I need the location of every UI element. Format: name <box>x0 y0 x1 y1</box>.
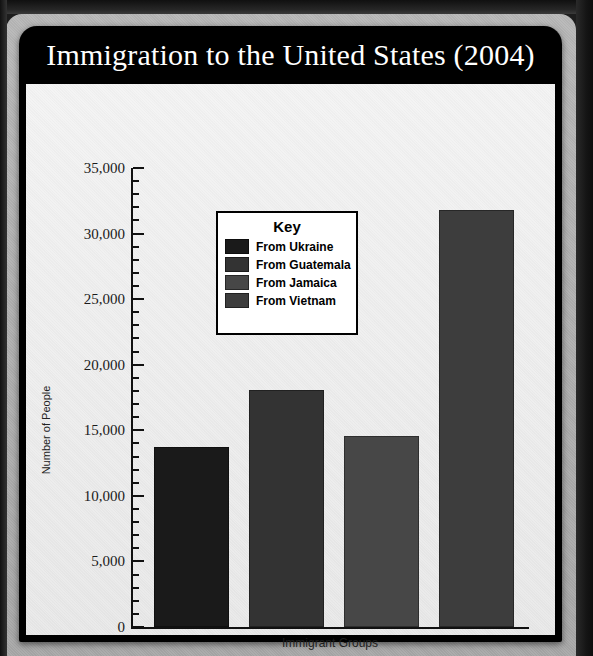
legend-item-label: From Vietnam <box>256 294 336 308</box>
chart-card-frame: Immigration to the United States (2004) … <box>19 26 562 642</box>
legend-title: Key <box>218 218 356 235</box>
bar-from-guatemala[interactable] <box>249 390 324 627</box>
y-axis-minor-tick <box>133 416 139 418</box>
screenshot-root: Immigration to the United States (2004) … <box>0 0 593 656</box>
legend-item[interactable]: From Vietnam <box>225 293 356 308</box>
y-axis-label: Number of People <box>40 350 52 510</box>
y-axis-minor-tick <box>133 600 139 602</box>
legend-item-label: From Ukraine <box>256 240 333 254</box>
y-axis-minor-tick <box>133 324 139 326</box>
y-axis-minor-tick <box>133 285 139 287</box>
legend-swatch-icon <box>225 293 249 308</box>
y-axis-minor-tick <box>133 587 139 589</box>
y-axis-minor-tick <box>133 337 139 339</box>
y-axis-major-tick <box>133 167 144 169</box>
y-axis-major-tick <box>133 298 144 300</box>
legend-swatch-icon <box>225 257 249 272</box>
legend-key-box: Key From UkraineFrom GuatemalaFrom Jamai… <box>216 211 358 335</box>
y-axis-major-tick <box>133 233 144 235</box>
y-axis-minor-tick <box>133 482 139 484</box>
y-axis-minor-tick <box>133 180 139 182</box>
plot-area: 35,00030,00025,00020,00015,00010,0005,00… <box>26 84 555 635</box>
y-axis-tick-label: 25,000 <box>33 291 125 308</box>
legend-swatch-icon <box>225 275 249 290</box>
y-axis-minor-tick <box>133 521 139 523</box>
y-axis-minor-tick <box>133 547 139 549</box>
y-axis-line <box>131 168 133 628</box>
chart-title: Immigration to the United States (2004) <box>19 26 562 84</box>
bar-from-jamaica[interactable] <box>344 436 419 627</box>
legend-item[interactable]: From Ukraine <box>225 239 356 254</box>
y-axis-tick-label: 30,000 <box>33 225 125 242</box>
y-axis-minor-tick <box>133 193 139 195</box>
page-edge-right <box>576 0 593 656</box>
y-axis-minor-tick <box>133 377 139 379</box>
legend-swatch-icon <box>225 239 249 254</box>
y-axis-major-tick <box>133 626 144 628</box>
page-edge-left <box>0 0 7 656</box>
y-axis-minor-tick <box>133 508 139 510</box>
bar-from-vietnam[interactable] <box>439 210 514 627</box>
y-axis-minor-tick <box>133 351 139 353</box>
y-axis-minor-tick <box>133 390 139 392</box>
y-axis-tick-label: 0 <box>33 619 125 636</box>
y-axis-minor-tick <box>133 219 139 221</box>
y-axis-tick-label: 35,000 <box>33 160 125 177</box>
legend-item-label: From Guatemala <box>256 258 351 272</box>
y-axis-minor-tick <box>133 613 139 615</box>
y-axis-minor-tick <box>133 442 139 444</box>
x-axis-line <box>131 627 529 629</box>
legend-rows: From UkraineFrom GuatemalaFrom JamaicaFr… <box>218 239 356 308</box>
x-axis-label: Immigrant Groups <box>131 636 529 650</box>
y-axis-major-tick <box>133 560 144 562</box>
y-axis-minor-tick <box>133 206 139 208</box>
y-axis-minor-tick <box>133 456 139 458</box>
y-axis-minor-tick <box>133 574 139 576</box>
y-axis-major-tick <box>133 429 144 431</box>
legend-item[interactable]: From Guatemala <box>225 257 356 272</box>
y-axis-minor-tick <box>133 403 139 405</box>
bar-from-ukraine[interactable] <box>154 447 229 627</box>
y-axis-tick-label: 5,000 <box>33 553 125 570</box>
chart-canvas: 35,00030,00025,00020,00015,00010,0005,00… <box>26 84 555 635</box>
y-axis-minor-tick <box>133 311 139 313</box>
y-axis-minor-tick <box>133 272 139 274</box>
y-axis-minor-tick <box>133 534 139 536</box>
legend-item[interactable]: From Jamaica <box>225 275 356 290</box>
y-axis-major-tick <box>133 364 144 366</box>
y-axis-minor-tick <box>133 259 139 261</box>
y-axis-minor-tick <box>133 469 139 471</box>
y-axis-major-tick <box>133 495 144 497</box>
page-edge-top <box>0 0 593 14</box>
y-axis-minor-tick <box>133 246 139 248</box>
legend-item-label: From Jamaica <box>256 276 337 290</box>
